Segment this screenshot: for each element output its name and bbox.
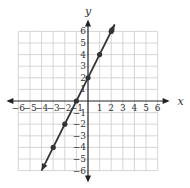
y-tick-label: 4 xyxy=(80,50,86,60)
x-tick-label: 5 xyxy=(143,103,149,113)
data-point xyxy=(74,98,79,103)
x-tick-label: 2 xyxy=(108,103,114,113)
y-tick-label: −5 xyxy=(73,154,87,164)
y-tick-label: −2 xyxy=(73,119,86,129)
data-point xyxy=(109,29,114,34)
y-tick-label: −6 xyxy=(73,166,87,176)
y-tick-label: 3 xyxy=(80,61,86,71)
x-axis-right-arrow-icon xyxy=(163,98,170,104)
data-point xyxy=(85,75,90,80)
data-point xyxy=(97,52,102,57)
y-axis-up-arrow-icon xyxy=(85,19,91,26)
y-axis-down-arrow-icon xyxy=(85,176,91,183)
x-axis-label: x xyxy=(178,95,185,108)
y-tick-label: −4 xyxy=(73,142,87,152)
data-point xyxy=(62,122,67,127)
y-axis-label: y xyxy=(84,5,92,18)
data-point xyxy=(51,145,56,150)
y-tick-label: 5 xyxy=(80,38,86,48)
x-tick-label: 1 xyxy=(97,103,103,113)
x-tick-label: 4 xyxy=(132,103,138,113)
y-tick-label: −1 xyxy=(73,108,86,118)
graph-svg: xy−6−5−4−3−2−1123456−6−5−4−3−2−1123456 xyxy=(0,0,190,188)
y-tick-label: −3 xyxy=(73,131,87,141)
y-tick-label: 6 xyxy=(80,26,86,36)
coordinate-plane: xy−6−5−4−3−2−1123456−6−5−4−3−2−1123456 xyxy=(0,0,190,188)
x-tick-label: 3 xyxy=(120,103,126,113)
x-tick-label: 6 xyxy=(155,103,161,113)
y-tick-label: 2 xyxy=(80,73,86,83)
